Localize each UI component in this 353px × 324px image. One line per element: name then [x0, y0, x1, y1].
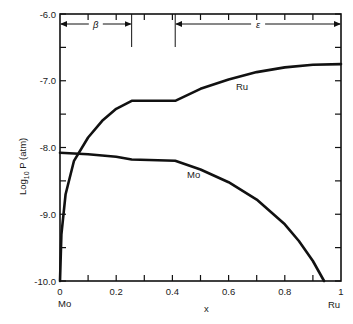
- x-tick-label: 0: [57, 286, 62, 297]
- pressure-composition-chart: -6.0-7.0-8.0-9.0-10.0 00.20.40.60.81 βε …: [0, 0, 353, 324]
- y-tick-label: -7.0: [40, 75, 56, 86]
- y-tick-label: -10.0: [34, 276, 56, 287]
- x-tick-label: 0.8: [278, 286, 291, 297]
- y-axis-title: Log10 P (atm): [17, 138, 30, 195]
- curve-ru: [60, 64, 341, 281]
- y-axis-ticks: -6.0-7.0-8.0-9.0-10.0: [34, 9, 341, 287]
- ru-curve-label: Ru: [236, 81, 248, 92]
- x-tick-label: 1: [338, 286, 343, 297]
- x-tick-label: 0.2: [110, 286, 123, 297]
- y-tick-label: -6.0: [40, 9, 56, 20]
- phase-label: β: [92, 19, 99, 30]
- series-curves: [60, 64, 341, 281]
- y-tick-label: -9.0: [40, 209, 56, 220]
- x-axis-title: x: [204, 303, 209, 314]
- x-tick-label: 0.6: [222, 286, 235, 297]
- y-tick-label: -8.0: [40, 142, 56, 153]
- mo-curve-label: Mo: [187, 169, 200, 180]
- x-axis-left-end-label: Mo: [58, 298, 71, 309]
- x-axis-right-end-label: Ru: [328, 299, 340, 310]
- x-tick-label: 0.4: [166, 286, 179, 297]
- phase-label: ε: [256, 19, 261, 30]
